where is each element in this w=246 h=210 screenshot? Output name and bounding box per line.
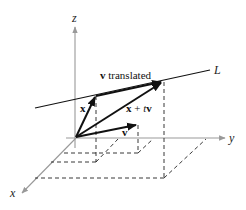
line-in-3d-diagram: z y x L v translated x x + tv v — [0, 0, 246, 210]
projection-lines — [35, 82, 206, 178]
x-axis-label: x — [9, 186, 16, 200]
z-axis-label: z — [71, 11, 77, 25]
x-plus-tv-label: x + tv — [126, 102, 152, 114]
x-vector-label: x — [80, 102, 86, 114]
v-vector-label: v — [122, 126, 128, 138]
line-L-label: L — [213, 63, 221, 77]
v-translated-label: v translated — [100, 69, 152, 81]
axes: z y x — [9, 11, 235, 200]
x-axis — [22, 138, 76, 193]
y-axis-label: y — [228, 131, 235, 145]
